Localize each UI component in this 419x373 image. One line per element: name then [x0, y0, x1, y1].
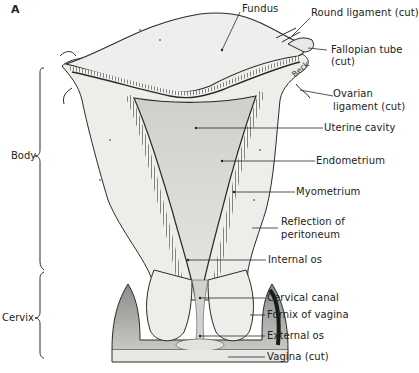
- region-label-cervix: Cervix: [2, 312, 34, 323]
- label-fallopian-tube-cut: (cut): [331, 56, 355, 68]
- label-peritoneum: peritoneum: [281, 229, 340, 241]
- cervix-shape: [112, 270, 288, 362]
- label-vagina: Vagina (cut): [267, 351, 329, 363]
- label-endometrium: Endometrium: [316, 155, 385, 167]
- label-cervical-canal: Cervical canal: [267, 292, 339, 304]
- label-fallopian-tube: Fallopian tube: [331, 44, 403, 56]
- region-label-body: Body: [11, 150, 36, 161]
- label-reflection-peritoneum: Reflection of: [281, 216, 345, 228]
- label-ovarian-ligament-cut: ligament (cut): [333, 101, 405, 113]
- cervix-bracket: [35, 272, 44, 358]
- label-fundus: Fundus: [242, 3, 278, 15]
- label-uterine-cavity: Uterine cavity: [324, 122, 396, 134]
- label-ovarian-ligament: Ovarian: [333, 88, 373, 100]
- body-bracket: [35, 68, 44, 270]
- label-external-os: External os: [267, 330, 324, 342]
- label-myometrium: Myometrium: [296, 186, 360, 198]
- label-fornix-vagina: Fornix of vagina: [267, 309, 349, 321]
- label-internal-os: Internal os: [268, 254, 322, 266]
- panel-label: A: [11, 3, 20, 16]
- label-round-ligament: Round ligament (cut): [311, 7, 419, 19]
